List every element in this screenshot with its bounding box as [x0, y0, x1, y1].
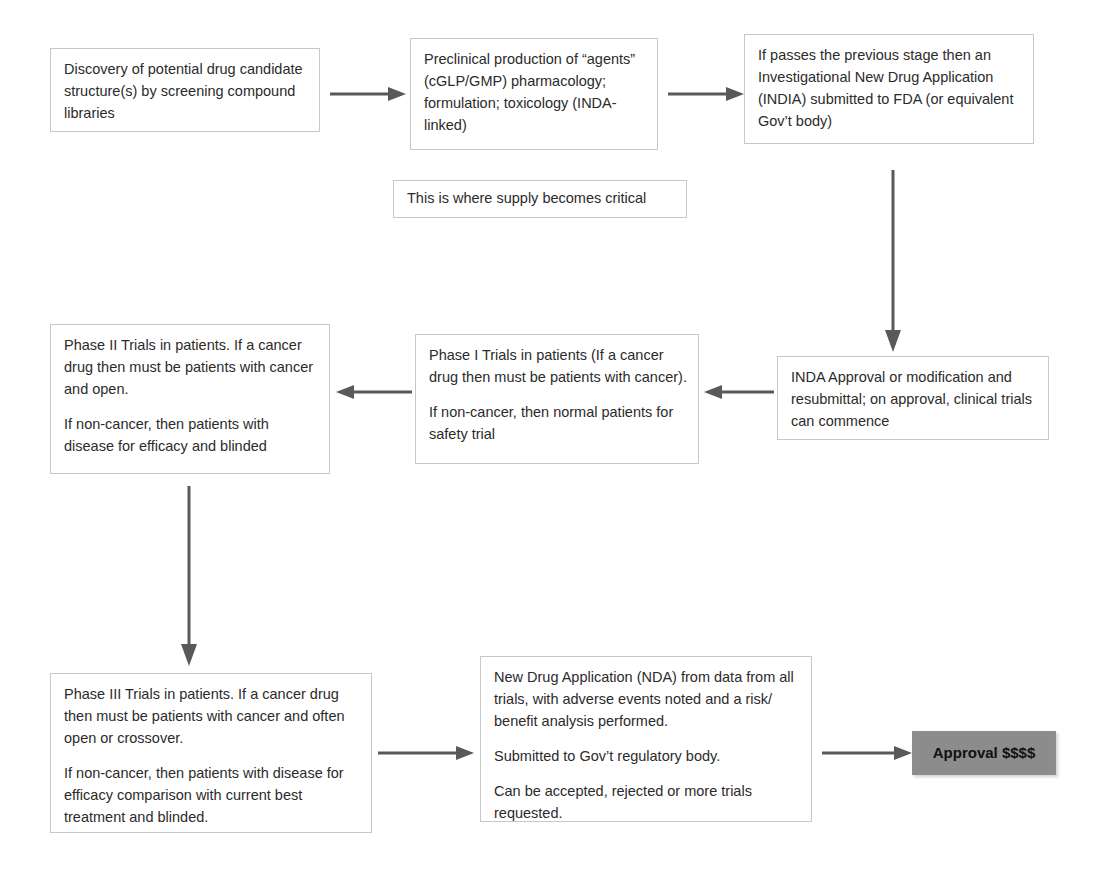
- arrow-phase-1-to-phase-2: [336, 382, 412, 402]
- discovery-text: Discovery of potential drug candidate st…: [64, 58, 308, 124]
- new-drug-application-box[interactable]: New Drug Application (NDA) from data fro…: [480, 656, 812, 822]
- arrow-inda-submission-to-inda-approval: [882, 170, 904, 354]
- phase-1-paragraph-2: If non-cancer, then normal patients for …: [429, 401, 687, 445]
- inda-submission-text: If passes the previous stage then an Inv…: [758, 44, 1022, 132]
- supply-critical-text: This is where supply becomes critical: [407, 188, 646, 210]
- phase-3-trials-box[interactable]: Phase III Trials in patients. If a cance…: [50, 673, 372, 833]
- nda-paragraph-2: Submitted to Gov’t regulatory body.: [494, 745, 800, 767]
- arrow-inda-approval-to-phase-1: [704, 382, 774, 402]
- phase-3-paragraph-1: Phase III Trials in patients. If a cance…: [64, 683, 360, 749]
- nda-paragraph-1: New Drug Application (NDA) from data fro…: [494, 666, 800, 732]
- approval-label: Approval $$$$: [933, 742, 1036, 765]
- approval-terminal-box[interactable]: Approval $$$$: [912, 731, 1056, 775]
- nda-paragraph-3: Can be accepted, rejected or more trials…: [494, 780, 800, 824]
- preclinical-text: Preclinical production of “agents” (cGLP…: [424, 48, 646, 136]
- arrow-nda-to-approval: [822, 743, 914, 763]
- arrow-phase-3-to-nda: [378, 743, 476, 763]
- inda-submission-box[interactable]: If passes the previous stage then an Inv…: [744, 34, 1034, 144]
- phase-2-paragraph-2: If non-cancer, then patients with diseas…: [64, 413, 318, 457]
- phase-2-trials-box[interactable]: Phase II Trials in patients. If a cancer…: [50, 324, 330, 474]
- phase-1-paragraph-1: Phase I Trials in patients (If a cancer …: [429, 344, 687, 388]
- flowchart-canvas: Discovery of potential drug candidate st…: [0, 0, 1100, 883]
- phase-3-paragraph-2: If non-cancer, then patients with diseas…: [64, 762, 360, 828]
- phase-2-paragraph-1: Phase II Trials in patients. If a cancer…: [64, 334, 318, 400]
- inda-approval-box[interactable]: INDA Approval or modification and resubm…: [777, 356, 1049, 440]
- phase-1-trials-box[interactable]: Phase I Trials in patients (If a cancer …: [415, 334, 699, 464]
- arrow-discovery-to-preclinical: [330, 84, 408, 104]
- inda-approval-text: INDA Approval or modification and resubm…: [791, 366, 1037, 432]
- arrow-phase-2-to-phase-3: [178, 486, 200, 668]
- preclinical-production-box[interactable]: Preclinical production of “agents” (cGLP…: [410, 38, 658, 150]
- discovery-box[interactable]: Discovery of potential drug candidate st…: [50, 48, 320, 132]
- arrow-preclinical-to-inda-submission: [668, 84, 746, 104]
- supply-critical-note[interactable]: This is where supply becomes critical: [393, 180, 687, 218]
